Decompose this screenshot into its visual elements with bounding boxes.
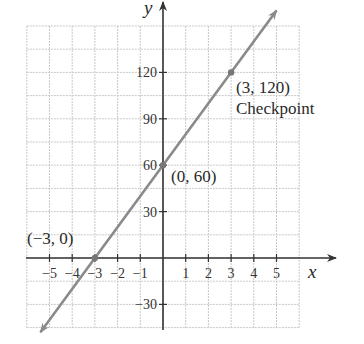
svg-text:−2: −2 bbox=[110, 266, 125, 281]
svg-text:−5: −5 bbox=[42, 266, 57, 281]
svg-text:4: 4 bbox=[250, 266, 257, 281]
data-point bbox=[228, 69, 234, 75]
svg-text:2: 2 bbox=[205, 266, 212, 281]
checkpoint-label: Checkpoint bbox=[236, 99, 315, 118]
svg-text:60: 60 bbox=[143, 158, 157, 173]
y-axis-label: y bbox=[142, 0, 153, 18]
data-point bbox=[160, 162, 166, 168]
point-label-neg3-0: (−3, 0) bbox=[27, 229, 73, 248]
svg-text:−1: −1 bbox=[133, 266, 148, 281]
svg-text:90: 90 bbox=[143, 112, 157, 127]
svg-text:3: 3 bbox=[228, 266, 235, 281]
data-line bbox=[40, 11, 276, 333]
svg-text:−3: −3 bbox=[87, 266, 102, 281]
svg-text:120: 120 bbox=[136, 65, 157, 80]
svg-text:−4: −4 bbox=[65, 266, 80, 281]
x-axis-label: x bbox=[307, 261, 317, 282]
line-chart: −5−4−3−2−112345−30306090120 x y (−3, 0) … bbox=[0, 0, 364, 344]
point-label-3-120: (3, 120) bbox=[236, 78, 290, 97]
data-point bbox=[92, 255, 98, 261]
svg-text:5: 5 bbox=[273, 266, 280, 281]
svg-text:1: 1 bbox=[182, 266, 189, 281]
svg-text:−30: −30 bbox=[135, 297, 157, 312]
svg-text:30: 30 bbox=[143, 205, 157, 220]
point-label-0-60: (0, 60) bbox=[171, 167, 216, 186]
